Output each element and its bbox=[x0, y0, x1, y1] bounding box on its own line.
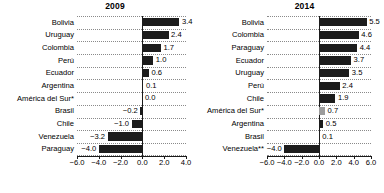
bar-value-label: 0.1 bbox=[143, 82, 156, 90]
category-label: Argentina bbox=[0, 82, 77, 90]
bar bbox=[142, 31, 168, 39]
category-label: Paraguay bbox=[186, 44, 267, 52]
gridline bbox=[77, 67, 186, 68]
bar-row: Uruguay2.4 bbox=[0, 29, 186, 42]
axis-tick-label: −4.0 bbox=[277, 159, 292, 167]
bar bbox=[319, 94, 335, 102]
bar-value-label: 5.5 bbox=[367, 19, 380, 27]
plot-area: 0.0 bbox=[77, 92, 186, 105]
bar-row: Perú1.0 bbox=[0, 54, 186, 67]
bar bbox=[140, 107, 142, 115]
bar bbox=[319, 56, 351, 64]
gridline bbox=[77, 54, 186, 55]
plot-area: −4.0 bbox=[77, 143, 186, 156]
plot-area: 5.5 bbox=[267, 16, 371, 29]
bar-value-label: −0.2 bbox=[123, 107, 141, 115]
bar-value-label: −1.0 bbox=[114, 120, 132, 128]
bar-value-label: −4.0 bbox=[267, 145, 285, 153]
bar bbox=[142, 18, 179, 26]
zero-line bbox=[319, 143, 320, 156]
bar-value-label: 0.7 bbox=[325, 107, 338, 115]
category-label: Perú bbox=[186, 82, 267, 90]
panel-title-2009: 2009 bbox=[0, 1, 208, 11]
bar-value-label: 4.4 bbox=[357, 44, 370, 52]
bar bbox=[142, 44, 161, 52]
bar-value-label: 4.6 bbox=[359, 31, 372, 39]
axis-tick-label: 2.0 bbox=[331, 159, 342, 167]
category-label: Bolivia bbox=[186, 19, 267, 27]
bar-row: Paraguay−4.0 bbox=[0, 143, 186, 156]
category-label: Brasil bbox=[186, 133, 267, 141]
plot-area: 1.9 bbox=[267, 92, 371, 105]
bar-row: Bolivia5.5 bbox=[186, 16, 371, 29]
axis-tick-label: −2.0 bbox=[113, 159, 128, 167]
category-label: América del Sur* bbox=[186, 107, 267, 115]
category-label: América del Sur* bbox=[0, 95, 77, 103]
bar-value-label: 1.0 bbox=[153, 57, 166, 65]
bar-value-label: −3.2 bbox=[90, 133, 108, 141]
category-label: Uruguay bbox=[0, 31, 77, 39]
axis-tick-label: 6.0 bbox=[366, 159, 377, 167]
bar-row: Ecuador3.7 bbox=[186, 54, 371, 67]
bar-value-label: 0.1 bbox=[320, 133, 333, 141]
plot-area: 4.4 bbox=[267, 41, 371, 54]
plot-area: 3.7 bbox=[267, 54, 371, 67]
plot-area: 0.5 bbox=[267, 118, 371, 131]
chart-panel-2009: 2009 Bolivia3.4Uruguay2.4Colombia1.7Perú… bbox=[0, 0, 186, 193]
bar bbox=[319, 44, 357, 52]
chart-panel-2014: 2014 Bolivia5.5Colombia4.6Paraguay4.4Ecu… bbox=[186, 0, 371, 193]
bar-value-label: 0.6 bbox=[149, 69, 162, 77]
bar bbox=[319, 82, 340, 90]
gridline bbox=[77, 29, 186, 30]
plot-area: 0.7 bbox=[267, 105, 371, 118]
zero-line bbox=[142, 143, 143, 156]
plot-area: 3.5 bbox=[267, 67, 371, 80]
bar-row: Venezuela−3.2 bbox=[0, 130, 186, 143]
bar bbox=[319, 31, 359, 39]
bar-rows-2009: Bolivia3.4Uruguay2.4Colombia1.7Perú1.0Ec… bbox=[0, 16, 186, 156]
gridline bbox=[77, 16, 186, 17]
bar bbox=[319, 69, 349, 77]
category-label: Brasil bbox=[0, 107, 77, 115]
category-label: Uruguay bbox=[186, 69, 267, 77]
plot-area: 0.6 bbox=[77, 67, 186, 80]
bar bbox=[142, 69, 149, 77]
category-label: Colombia bbox=[186, 31, 267, 39]
plot-area: 4.6 bbox=[267, 29, 371, 42]
category-label: Bolivia bbox=[0, 19, 77, 27]
panel-title-2014: 2014 bbox=[186, 1, 384, 11]
gridline bbox=[77, 92, 186, 93]
plot-area: 3.4 bbox=[77, 16, 186, 29]
bar-row: Ecuador0.6 bbox=[0, 67, 186, 80]
axis-tick-label: −6.0 bbox=[70, 159, 85, 167]
bar-value-label: 0.0 bbox=[142, 95, 155, 103]
bar-row: Perú2.4 bbox=[186, 79, 371, 92]
category-label: Argentina bbox=[186, 120, 267, 128]
bar-row: Venezuela**−4.0 bbox=[186, 143, 371, 156]
x-axis-2014: −6.0−4.0−2.00.02.04.06.0 bbox=[186, 156, 371, 170]
plot-area: 2.4 bbox=[77, 29, 186, 42]
bar-row: Argentina0.5 bbox=[186, 118, 371, 131]
gridline bbox=[77, 79, 186, 80]
bar-value-label: 3.7 bbox=[351, 57, 364, 65]
bar-value-label: 1.9 bbox=[335, 95, 348, 103]
category-label: Colombia bbox=[0, 44, 77, 52]
plot-area: 1.0 bbox=[77, 54, 186, 67]
bar-row: Colombia1.7 bbox=[0, 41, 186, 54]
bar bbox=[284, 145, 319, 153]
bar-row: América del Sur*0.0 bbox=[0, 92, 186, 105]
axis-tick-label: −6.0 bbox=[260, 159, 275, 167]
plot-area: 0.1 bbox=[77, 79, 186, 92]
plot-area: −1.0 bbox=[77, 118, 186, 131]
plot-area: 1.7 bbox=[77, 41, 186, 54]
category-label: Venezuela bbox=[0, 133, 77, 141]
bar-row: Paraguay4.4 bbox=[186, 41, 371, 54]
bar bbox=[132, 120, 143, 128]
category-label: Venezuela** bbox=[186, 145, 267, 153]
category-label: Perú bbox=[0, 57, 77, 65]
bar-rows-2014: Bolivia5.5Colombia4.6Paraguay4.4Ecuador3… bbox=[186, 16, 371, 156]
bar-value-label: 2.4 bbox=[169, 31, 182, 39]
axis-tick-label: 0.0 bbox=[314, 159, 325, 167]
axis-line bbox=[77, 156, 186, 157]
